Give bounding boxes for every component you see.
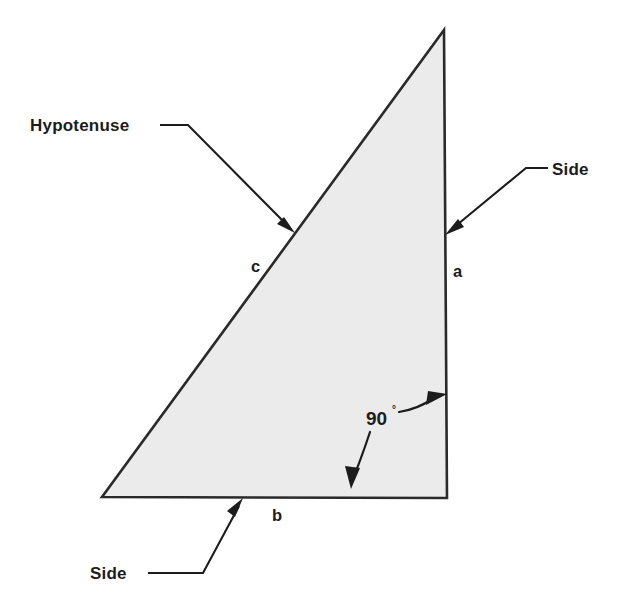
side-right-leader-line xyxy=(452,168,548,229)
right-angle-value-label: 90 xyxy=(366,408,387,429)
degree-symbol-label: ° xyxy=(392,404,396,415)
side-b-label: b xyxy=(272,506,282,524)
side-a-label: a xyxy=(453,262,463,280)
triangle-diagram: Hypotenuse Side Side 90 ° c a b xyxy=(0,0,617,612)
side-bottom-label: Side xyxy=(90,564,127,583)
hypotenuse-label: Hypotenuse xyxy=(30,116,129,135)
right-triangle-shape xyxy=(102,30,447,498)
side-bottom-leader-line xyxy=(148,506,239,573)
hypotenuse-leader-line xyxy=(160,125,288,226)
hypotenuse-leader-arrowhead xyxy=(277,217,295,233)
side-right-label: Side xyxy=(552,160,589,179)
side-c-label: c xyxy=(251,257,260,275)
geometry-figure: Hypotenuse Side Side 90 ° c a b xyxy=(0,0,617,612)
side-bottom-leader-arrowhead xyxy=(227,498,243,517)
